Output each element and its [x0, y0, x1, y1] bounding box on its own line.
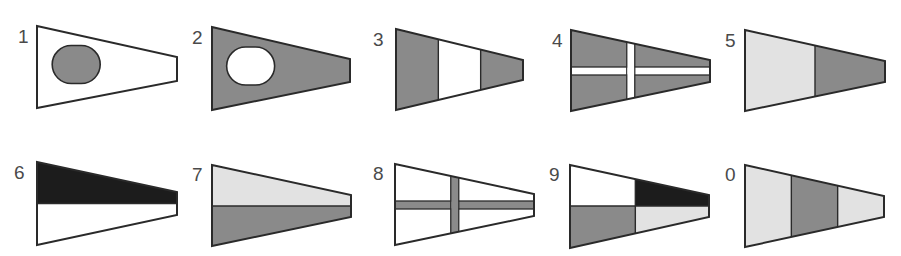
pennant-4: [571, 30, 710, 111]
pennant-1-graphic: [37, 26, 177, 108]
pennant-4-graphic: [571, 30, 710, 111]
pennant-label: 0: [725, 165, 736, 184]
pennant-6: [37, 162, 177, 245]
pennant-8-graphic: [395, 164, 534, 245]
pennant-9: [570, 165, 709, 248]
pennant-label: 2: [192, 28, 203, 47]
pennant-7: [212, 165, 351, 246]
pennant-label: 5: [725, 31, 736, 50]
pennant-9-graphic: [570, 165, 709, 248]
pennant-8: [395, 164, 534, 245]
pennant-label: 7: [192, 165, 203, 184]
pennant-0: [745, 165, 884, 247]
pennant-1: [37, 26, 177, 108]
pennant-2: [212, 27, 350, 110]
pennant-chart: 1234567890: [0, 0, 901, 256]
pennant-label: 3: [373, 30, 384, 49]
pennant-0-graphic: [745, 165, 884, 247]
pennant-2-graphic: [212, 27, 350, 110]
pennant-3: [396, 29, 523, 110]
pennant-7-graphic: [212, 165, 351, 246]
pennant-5-graphic: [745, 30, 885, 111]
pennant-6-graphic: [37, 162, 177, 245]
pennant-label: 6: [14, 163, 25, 182]
pennant-label: 1: [18, 27, 29, 46]
pennant-3-graphic: [396, 29, 523, 110]
pennant-label: 9: [549, 165, 560, 184]
pennant-label: 8: [373, 164, 384, 183]
pennant-label: 4: [552, 31, 563, 50]
pennant-5: [745, 30, 885, 111]
